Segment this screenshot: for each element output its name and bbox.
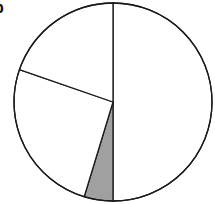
pie-slice-1: [113, 3, 212, 201]
pie-chart: [0, 0, 215, 204]
